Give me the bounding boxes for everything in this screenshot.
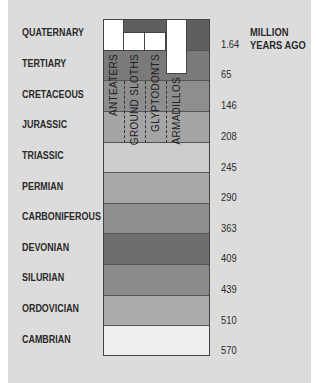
period-label-cretaceous: CRETACEOUS bbox=[22, 88, 84, 100]
bar-anteaters bbox=[103, 19, 124, 51]
period-label-ordovician: ORDOVICIAN bbox=[22, 302, 79, 314]
age-label: 146 bbox=[221, 99, 237, 111]
unit-label-line-1: MILLION bbox=[250, 26, 306, 39]
divider-2 bbox=[145, 81, 146, 143]
age-label: 570 bbox=[221, 344, 237, 356]
divider-3 bbox=[166, 81, 167, 143]
age-label: 65 bbox=[221, 68, 231, 80]
period-label-tertiary: TERTIARY bbox=[22, 57, 66, 69]
bar-ground-sloths bbox=[123, 32, 145, 51]
age-label: 439 bbox=[221, 283, 237, 295]
band-silurian bbox=[104, 265, 209, 296]
bar-sloth-glypt-cap bbox=[123, 19, 167, 33]
geologic-timescale-column: ANTEATERS GROUND SLOTHS GLYPTODONTS ARMA… bbox=[103, 19, 210, 356]
label-glyptodonts: GLYPTODONTS bbox=[150, 54, 161, 132]
band-cambrian bbox=[104, 326, 209, 355]
period-label-jurassic: JURASSIC bbox=[22, 118, 67, 130]
divider-1 bbox=[124, 81, 125, 143]
band-carboniferous bbox=[104, 204, 209, 234]
unit-label-line-2: YEARS AGO bbox=[250, 39, 306, 52]
band-devonian bbox=[104, 234, 209, 265]
band-permian bbox=[104, 173, 209, 204]
age-label: 409 bbox=[221, 252, 237, 264]
period-label-devonian: DEVONIAN bbox=[22, 241, 69, 253]
age-label: 245 bbox=[221, 161, 237, 173]
period-label-carboniferous: CARBONIFEROUS bbox=[22, 210, 101, 222]
label-ground-sloths: GROUND SLOTHS bbox=[129, 54, 140, 145]
bar-armadillos bbox=[166, 19, 187, 74]
period-label-cambrian: CAMBRIAN bbox=[22, 333, 71, 345]
age-label: 290 bbox=[221, 191, 237, 203]
age-label: 1.64 bbox=[221, 38, 239, 50]
age-label: 208 bbox=[221, 130, 237, 142]
age-label: 363 bbox=[221, 222, 237, 234]
label-armadillos: ARMADILLOS bbox=[171, 77, 182, 144]
band-triassic bbox=[104, 143, 209, 173]
period-label-quaternary: QUATERNARY bbox=[22, 26, 84, 38]
unit-label: MILLION YEARS AGO bbox=[250, 26, 306, 52]
age-label: 510 bbox=[221, 314, 237, 326]
period-label-silurian: SILURIAN bbox=[22, 271, 64, 283]
label-anteaters: ANTEATERS bbox=[108, 54, 119, 116]
band-ordovician bbox=[104, 296, 209, 326]
period-label-permian: PERMIAN bbox=[22, 180, 63, 192]
period-label-triassic: TRIASSIC bbox=[22, 149, 64, 161]
bar-glyptodonts bbox=[144, 32, 166, 51]
